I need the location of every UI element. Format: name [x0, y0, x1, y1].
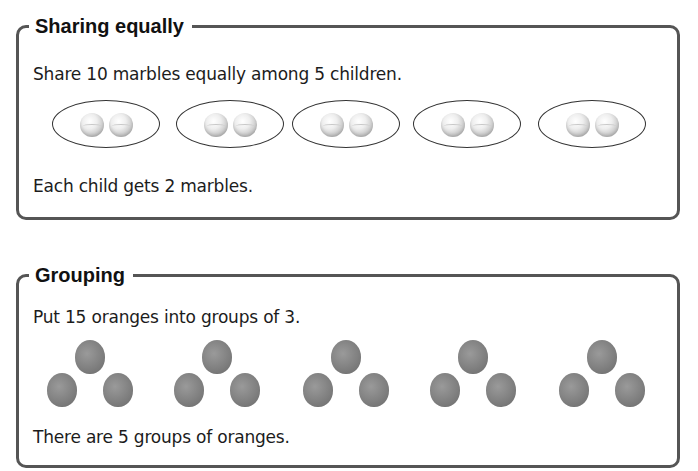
- grouping-panel: Grouping Put 15 oranges into groups of 3…: [16, 274, 680, 468]
- orange-icon: [103, 373, 133, 407]
- orange-group: [430, 337, 520, 417]
- marble-group: [292, 100, 400, 148]
- marble-icon: [204, 113, 228, 137]
- marble-icon: [595, 113, 619, 137]
- orange-icon: [75, 340, 105, 374]
- orange-groups: [47, 337, 667, 417]
- orange-icon: [174, 373, 204, 407]
- orange-group: [174, 337, 264, 417]
- orange-icon: [303, 373, 333, 407]
- marble-icon: [233, 113, 257, 137]
- grouping-result: There are 5 groups of oranges.: [33, 427, 290, 447]
- sharing-equally-panel: Sharing equally Share 10 marbles equally…: [16, 25, 680, 220]
- orange-icon: [230, 373, 260, 407]
- orange-icon: [587, 340, 617, 374]
- orange-group: [47, 337, 137, 417]
- orange-group: [559, 337, 649, 417]
- orange-icon: [559, 373, 589, 407]
- orange-icon: [486, 373, 516, 407]
- orange-icon: [615, 373, 645, 407]
- marble-icon: [566, 113, 590, 137]
- marble-icon: [441, 113, 465, 137]
- sharing-prompt: Share 10 marbles equally among 5 childre…: [33, 64, 402, 84]
- marble-icon: [80, 113, 104, 137]
- orange-icon: [359, 373, 389, 407]
- grouping-prompt: Put 15 oranges into groups of 3.: [33, 307, 300, 327]
- orange-icon: [202, 340, 232, 374]
- marble-group: [413, 100, 521, 148]
- marble-groups: [52, 100, 672, 150]
- sharing-equally-title: Sharing equally: [29, 13, 192, 39]
- orange-icon: [458, 340, 488, 374]
- marble-group: [538, 100, 646, 148]
- marble-icon: [320, 113, 344, 137]
- marble-icon: [349, 113, 373, 137]
- orange-icon: [47, 373, 77, 407]
- orange-group: [303, 337, 393, 417]
- grouping-title: Grouping: [29, 262, 133, 288]
- marble-group: [52, 100, 160, 148]
- orange-icon: [430, 373, 460, 407]
- sharing-result: Each child gets 2 marbles.: [33, 176, 253, 196]
- marble-group: [176, 100, 284, 148]
- marble-icon: [470, 113, 494, 137]
- marble-icon: [109, 113, 133, 137]
- orange-icon: [331, 340, 361, 374]
